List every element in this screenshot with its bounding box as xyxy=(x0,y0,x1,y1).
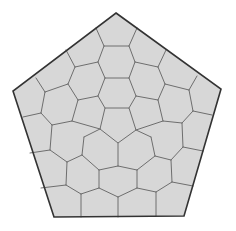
diagram-stage xyxy=(0,0,236,231)
pentagon-tessellation-diagram xyxy=(0,0,236,231)
